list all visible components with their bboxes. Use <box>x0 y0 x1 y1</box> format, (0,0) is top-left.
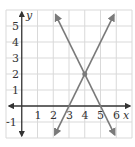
x-tick-6: 6 <box>113 109 120 122</box>
coordinate-plane: y x 1 2 3 4 5 6 5 4 3 2 1 -1 <box>0 0 135 147</box>
y-tick-4: 4 <box>12 36 19 49</box>
y-axis-label: y <box>25 9 33 22</box>
x-axis-label: x <box>123 109 130 122</box>
x-tick-4: 4 <box>82 109 89 122</box>
y-tick-2: 2 <box>12 68 19 81</box>
intersection-point <box>82 72 87 77</box>
y-tick-neg1: -1 <box>6 116 17 129</box>
y-tick-3: 3 <box>12 52 19 65</box>
y-tick-5: 5 <box>12 20 19 33</box>
y-tick-1: 1 <box>12 84 19 97</box>
x-tick-2: 2 <box>50 109 57 122</box>
x-tick-1: 1 <box>35 109 42 122</box>
